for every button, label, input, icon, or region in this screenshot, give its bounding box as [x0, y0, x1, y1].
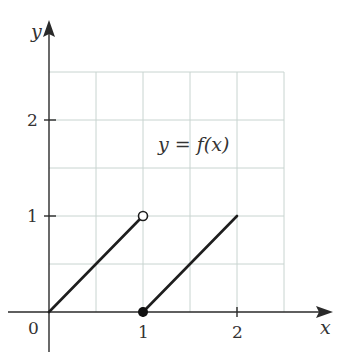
chart: y x 0 1 2 1 2 y = f(x): [0, 0, 347, 356]
tick-label-y1: 1: [27, 206, 38, 226]
tick-label-x2: 2: [232, 322, 243, 342]
tick-label-x1: 1: [138, 322, 149, 342]
tick-label-y2: 2: [27, 110, 38, 130]
filled-circle-marker: [138, 307, 148, 317]
origin-label: 0: [28, 318, 39, 338]
open-circle-marker: [139, 212, 148, 221]
axes: [8, 28, 322, 352]
function-annotation: y = f(x): [157, 133, 229, 155]
y-axis-label: y: [30, 20, 42, 42]
x-axis-label: x: [320, 316, 331, 338]
segment-1: [49, 219, 140, 312]
